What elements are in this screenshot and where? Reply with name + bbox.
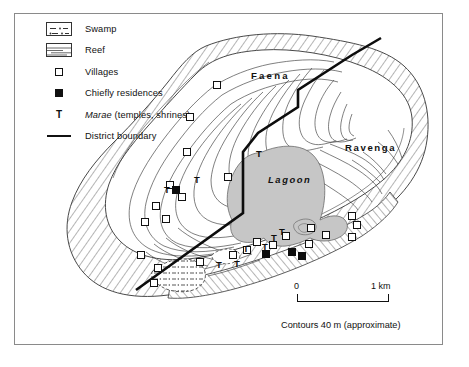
map-marker-chiefly-residence [172,186,180,194]
legend: Swamp Reef Villages [42,18,257,147]
reef-swatch-icon [42,43,76,57]
map-marker-village [162,215,170,223]
map-marker-marae: T [234,260,240,268]
map-marker-marae: T [256,150,262,158]
map-marker-marae: T [164,186,170,194]
legend-label-district-boundary: District boundary [85,131,156,141]
map-marker-marae: T [216,261,222,269]
legend-label-chiefly-residences: Chiefly residences [85,88,163,98]
map-marker-village [141,218,149,226]
legend-label-marae-term: Marae [85,110,112,120]
map-marker-village [305,240,313,248]
contour-caption: Contours 40 m (approximate) [281,320,401,330]
map-marker-marae: T [279,228,285,236]
map-marker-village [213,81,221,89]
thick-line-icon [42,135,76,137]
legend-item-marae: T Marae (temples, shrines) [42,104,257,126]
map-marker-village [137,251,145,259]
map-marker-chiefly-residence [298,252,306,260]
map-marker-marae: T [262,243,268,251]
legend-item-villages: Villages [42,61,257,83]
scale-label-max: 1 km [371,281,391,291]
map-marker-marae: T [243,245,249,253]
map-marker-chiefly-residence [288,248,296,256]
map-marker-village [154,264,162,272]
map-label-faena: Faena [251,70,290,81]
legend-label-reef: Reef [85,45,105,55]
legend-item-swamp: Swamp [42,18,257,40]
map-marker-village [322,231,330,239]
legend-item-chiefly-residences: Chiefly residences [42,83,257,105]
legend-label-marae-gloss: (temples, shrines) [112,110,190,120]
map-marker-village [196,258,204,266]
scale-label-zero: 0 [294,281,299,291]
map-marker-village [152,202,160,210]
legend-label-villages: Villages [85,67,118,77]
legend-label-marae: Marae (temples, shrines) [85,110,190,120]
map-marker-village [150,279,158,287]
map-marker-village [178,193,186,201]
legend-item-reef: Reef [42,40,257,62]
map-marker-village [183,148,191,156]
t-glyph-icon: T [42,110,76,120]
swamp-swatch-icon [42,22,76,36]
map-marker-village [186,113,194,121]
legend-item-district-boundary: District boundary [42,126,257,148]
figure-root: Swamp Reef Villages [0,0,469,367]
open-square-icon [42,68,76,76]
map-marker-village [348,233,356,241]
map-marker-village [253,238,261,246]
map-marker-village [353,221,361,229]
map-label-ravenga: Ravenga [345,142,396,153]
map-marker-village [307,224,315,232]
map-label-lagoon: Lagoon [268,174,311,185]
filled-square-icon [42,89,76,97]
map-marker-marae: T [194,176,200,184]
scale-bar [297,294,389,302]
map-marker-village [348,212,356,220]
map-marker-marae: T [271,234,277,242]
map-marker-village [224,173,232,181]
legend-label-swamp: Swamp [85,24,117,34]
